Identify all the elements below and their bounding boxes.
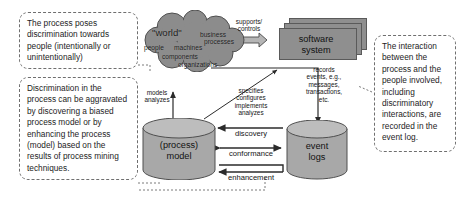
event-logs-node: event logs	[285, 120, 349, 180]
edge-label-records-events: records events, e.g., messages, transact…	[301, 66, 347, 103]
callout-top-left-text: The process poses discrimination towards…	[27, 18, 110, 62]
arrow-enhancement	[219, 165, 283, 172]
callout-right-text: The interaction between the process and …	[382, 41, 442, 142]
software-system-node: software system	[277, 18, 369, 66]
cloud-label-business: business	[200, 31, 226, 38]
cloud-label-processes: processes	[204, 38, 234, 45]
callout-bottom-left-text: Discrimination in the process can be agg…	[27, 83, 127, 173]
callout-right: The interaction between the process and …	[374, 35, 456, 152]
callout-top-left: The process poses discrimination towards…	[19, 12, 138, 69]
process-model-label-line1: (process)	[141, 140, 217, 151]
edge-label-discovery: discovery	[219, 130, 283, 139]
cloud-label-people: people	[144, 44, 164, 51]
event-logs-label-line2: logs	[285, 152, 349, 163]
software-system-label: software system	[280, 34, 352, 56]
cloud-label-components: components	[162, 53, 198, 60]
software-system-label-line1: software	[280, 34, 352, 45]
cloud-label-machines: machines	[174, 44, 202, 51]
process-model-node: (process) model	[141, 118, 217, 180]
edge-label-enhancement: enhancement	[212, 174, 290, 183]
callout-bottom-left: Discrimination in the process can be agg…	[19, 77, 138, 180]
cloud-label-world: "world"	[152, 27, 182, 38]
leader-right-to-records	[358, 86, 372, 92]
diagram-canvas: The process poses discrimination towards…	[0, 0, 467, 197]
edge-label-specifies: specifies configures implements analyzes	[230, 87, 272, 117]
edge-label-models-analyzes: models analyzes	[142, 89, 172, 104]
edge-label-conformance: conformance	[212, 150, 290, 159]
event-logs-label-line1: event	[285, 141, 349, 152]
edge-label-supports-controls: supports/ controls	[224, 18, 274, 33]
software-system-label-line2: system	[280, 45, 352, 56]
process-model-label-line2: model	[141, 151, 217, 162]
cloud-label-organizations: organizations	[178, 61, 217, 68]
